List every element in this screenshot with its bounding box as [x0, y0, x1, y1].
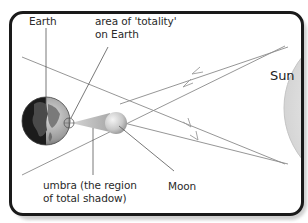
moon [105, 112, 127, 134]
sun [284, 27, 308, 189]
leader-lines [46, 28, 174, 175]
totality-label-line1: area of 'totality' [95, 15, 176, 27]
umbra-cone [71, 113, 110, 132]
totality-label-line2: on Earth [95, 28, 139, 40]
earth-label: Earth [29, 15, 57, 27]
earth [20, 95, 70, 147]
sun-label: Sun [270, 70, 294, 82]
moon-label: Moon [168, 180, 196, 192]
umbra-label-line2: of total shadow) [43, 192, 127, 204]
umbra-label-line1: umbra (the region [43, 179, 137, 191]
